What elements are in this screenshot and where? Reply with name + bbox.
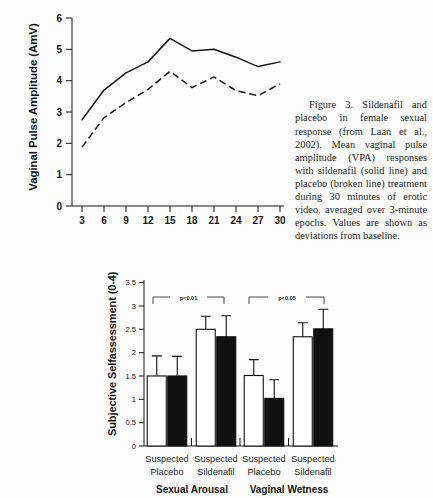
bar-chart-y-ticks	[139, 283, 144, 446]
error-bar-3-filled	[318, 309, 328, 329]
cat-2-line-1: Placebo	[247, 467, 280, 477]
error-bar-2-open	[249, 360, 259, 376]
x-tick-15: 15	[164, 215, 176, 226]
bar-y-tick-2: 2	[132, 348, 136, 357]
y-tick-1: 1	[56, 169, 62, 180]
figure-page: Vaginal Pulse Amplitude (AmV) 6 5 4 3 2	[0, 0, 433, 498]
bar-3-open	[293, 337, 312, 446]
cat-1-line-0: Suspected	[194, 454, 237, 464]
bar-2-open	[244, 376, 263, 447]
p-value-sexual-arousal: p<0.01	[180, 295, 198, 301]
placebo-dashed-line	[82, 71, 280, 147]
bar-chart-bars	[147, 309, 333, 446]
bar-3-filled	[314, 329, 333, 446]
bar-y-tick-1: 1	[132, 395, 136, 404]
group-label-vaginal-wetness: Vaginal Wetness	[250, 484, 329, 495]
bar-y-tick-3: 3	[132, 302, 136, 311]
bar-chart-y-tick-labels: 3.5 3 2.5 2 1.5 1 0.5 0	[125, 278, 136, 450]
sildenafil-solid-line	[82, 38, 280, 119]
group-label-sexual-arousal: Sexual Arousal	[156, 484, 228, 495]
bar-chart-group-labels: Sexual Arousal Vaginal Wetness	[156, 484, 329, 495]
vpa-line-chart: Vaginal Pulse Amplitude (AmV) 6 5 4 3 2	[8, 6, 288, 256]
line-chart-y-ticks	[66, 18, 72, 206]
y-tick-3: 3	[56, 107, 62, 118]
x-tick-6: 6	[101, 215, 107, 226]
cat-0-line-0: Suspected	[145, 454, 188, 464]
error-bar-0-filled	[172, 356, 182, 376]
y-tick-6: 6	[56, 13, 62, 24]
x-tick-3: 3	[79, 215, 85, 226]
error-bar-2-filled	[269, 380, 279, 399]
bar-1-open	[196, 329, 215, 446]
x-tick-18: 18	[186, 215, 198, 226]
cat-3-line-1: Sildenafil	[294, 467, 331, 477]
bar-0-open	[147, 376, 166, 446]
bracket-1-left	[153, 297, 170, 304]
line-chart-plot: 6 5 4 3 2 1 0 3	[44, 10, 288, 240]
cat-3-line-0: Suspected	[291, 454, 334, 464]
y-tick-4: 4	[56, 75, 62, 86]
bar-chart-y-axis-label: Subjective Selfassessment (0-4)	[106, 276, 118, 436]
line-chart-x-ticks	[82, 206, 280, 212]
bar-chart-category-labels: Suspected Placebo Suspected Sildenafil S…	[145, 454, 334, 477]
bar-1-filled	[217, 337, 236, 446]
p-value-vaginal-wetness: p<0.05	[278, 295, 296, 301]
x-tick-24: 24	[230, 215, 242, 226]
x-tick-30: 30	[274, 215, 286, 226]
bar-chart-plot: 3.5 3 2.5 2 1.5 1 0.5 0 p<0.01	[118, 272, 344, 498]
x-tick-21: 21	[208, 215, 220, 226]
line-chart-y-tick-labels: 6 5 4 3 2 1 0	[56, 13, 62, 212]
bar-y-tick-0: 0	[132, 442, 136, 451]
line-chart-x-tick-labels: 3 6 9 12 15 18 21 24 27 30	[79, 215, 286, 226]
cat-1-line-1: Sildenafil	[197, 467, 234, 477]
y-tick-2: 2	[56, 138, 62, 149]
error-bar-3-open	[298, 323, 308, 337]
bar-y-tick-0p5: 0.5	[125, 418, 136, 427]
bar-0-filled	[168, 376, 187, 446]
subjective-selfassessment-bar-chart: Subjective Selfassessment (0-4) 3.5 3 2.…	[96, 272, 346, 498]
bar-y-tick-3p5: 3.5	[125, 278, 136, 287]
y-tick-0: 0	[56, 201, 62, 212]
x-tick-27: 27	[252, 215, 264, 226]
cat-0-line-1: Placebo	[150, 467, 183, 477]
bracket-1-right	[207, 297, 224, 304]
line-chart-y-axis-label: Vaginal Pulse Amplitude (AmV)	[27, 12, 39, 202]
error-bar-1-open	[201, 316, 211, 329]
cat-2-line-0: Suspected	[242, 454, 285, 464]
bar-chart-significance-brackets: p<0.01 p<0.05	[153, 295, 324, 305]
bar-y-tick-1p5: 1.5	[125, 372, 136, 381]
figure-caption: Figure 3. Sildenafil and placebo in fema…	[295, 98, 427, 242]
y-tick-5: 5	[56, 44, 62, 55]
bar-2-filled	[265, 398, 284, 446]
x-tick-12: 12	[142, 215, 154, 226]
bracket-2-right	[306, 297, 324, 304]
bracket-2-left	[249, 297, 268, 304]
error-bar-1-filled	[221, 316, 231, 337]
error-bar-0-open	[152, 356, 162, 376]
bar-y-tick-2p5: 2.5	[125, 325, 136, 334]
x-tick-9: 9	[123, 215, 129, 226]
